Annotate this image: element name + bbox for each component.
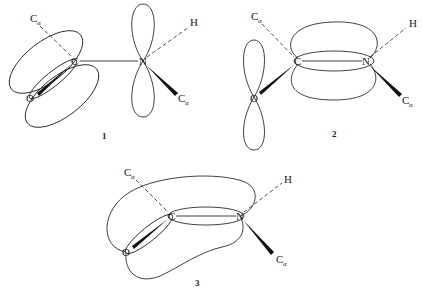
- svg-text:α: α: [185, 99, 189, 107]
- panel-label-3: 3: [195, 278, 200, 288]
- atom-carbon: C: [168, 210, 175, 222]
- atom-hydrogen: H: [284, 173, 292, 185]
- atom-carbon: C: [71, 55, 78, 67]
- atom-nitrogen: N: [139, 55, 147, 67]
- atom-nitrogen: N: [236, 210, 244, 222]
- atom-oxygen: O: [122, 246, 130, 258]
- peptide-orbital-diagram: C α C N O H C α 1 C α C: [0, 0, 422, 295]
- panel-label-1: 1: [102, 131, 107, 141]
- atom-hydrogen: H: [409, 17, 417, 29]
- svg-text:α: α: [131, 173, 135, 181]
- panel-label-2: 2: [332, 129, 337, 139]
- svg-text:α: α: [283, 260, 287, 268]
- svg-text:α: α: [258, 17, 262, 25]
- atom-carbon: C: [294, 55, 301, 67]
- atom-nitrogen: N: [362, 55, 370, 67]
- atom-hydrogen: H: [190, 16, 198, 28]
- svg-text:α: α: [409, 101, 413, 109]
- atom-oxygen: O: [26, 92, 34, 104]
- svg-text:α: α: [37, 19, 41, 27]
- atom-oxygen: O: [250, 92, 258, 104]
